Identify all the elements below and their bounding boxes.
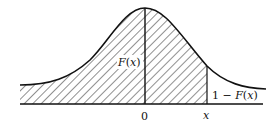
origin-tick-label: 0 (141, 110, 148, 123)
tail-label: 1 − F(x) (212, 89, 258, 102)
x-tick-label: x (203, 109, 210, 122)
normal-curve-diagram: F(x) 1 − F(x) 0 x (0, 0, 280, 128)
hatched-area-fx (20, 0, 207, 104)
cdf-label: F(x) (117, 56, 140, 69)
